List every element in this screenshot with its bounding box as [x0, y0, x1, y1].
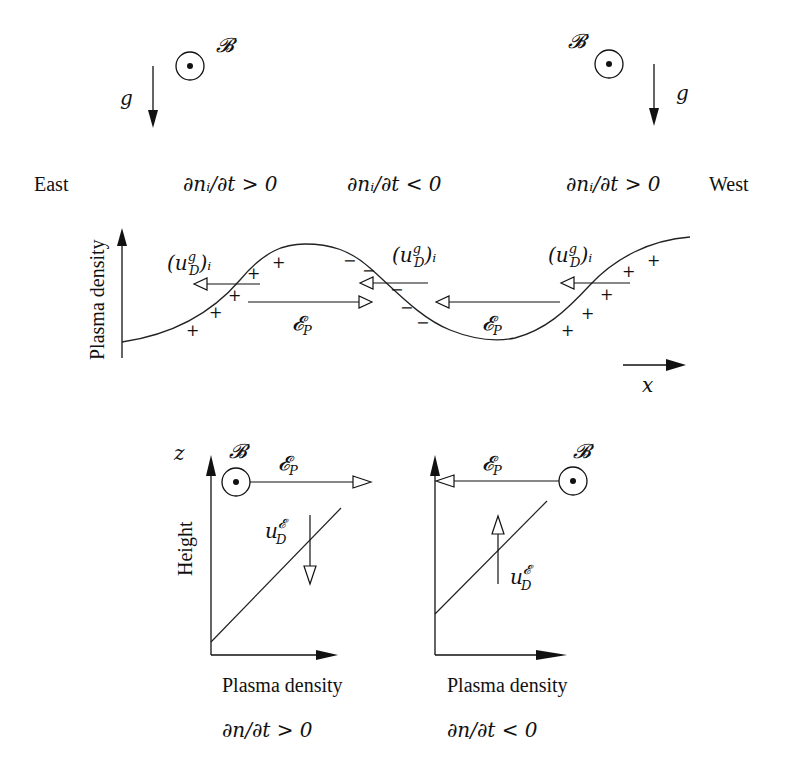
- z-axis-label: z: [173, 441, 185, 465]
- svg-text:+: +: [247, 264, 260, 283]
- svg-text:+: +: [228, 286, 241, 305]
- rate-label-3: ∂nᵢ/∂t > 0: [566, 172, 661, 196]
- y-axis-label-plasma-density: Plasma density: [86, 239, 109, 360]
- svg-text:+: +: [272, 253, 285, 272]
- electric-field-label-2: 𝓔P: [482, 311, 502, 338]
- x-axis-label: x: [642, 373, 653, 397]
- bottom-right-field-label: 𝓔P: [482, 451, 502, 478]
- svg-text:+: +: [622, 262, 635, 281]
- bottom-left-field-label: 𝓔P: [278, 451, 298, 478]
- bottom-left-drift-arrow: [304, 515, 316, 584]
- right-gravity-arrow: [649, 64, 659, 126]
- right-g-label: g: [676, 81, 689, 105]
- ion-drift-label-3: (ugD)ᵢ: [548, 241, 592, 270]
- bottom-left-drift-label: u𝓔D: [265, 516, 289, 547]
- rate-label-2: ∂nᵢ/∂t < 0: [347, 172, 442, 196]
- east-label: East: [34, 173, 69, 195]
- electric-field-arrow-2: [436, 296, 560, 308]
- svg-text:−: −: [343, 251, 356, 270]
- arrow-down-icon: [148, 110, 158, 128]
- svg-text:+: +: [209, 303, 222, 322]
- bottom-right-drift-label: u𝓔D: [510, 562, 534, 593]
- bottom-left-b-label: 𝓑: [229, 439, 251, 463]
- bottom-right-b-label: 𝓑: [573, 439, 595, 463]
- left-magnetic-field-symbol: [176, 52, 204, 80]
- svg-text:+: +: [561, 321, 574, 340]
- ion-drift-label-2: (ugD)ᵢ: [392, 241, 436, 270]
- svg-text:+: +: [186, 321, 199, 340]
- left-gravity-arrow: [148, 66, 158, 128]
- y-axis-arrow: [117, 228, 127, 358]
- svg-text:+: +: [647, 251, 660, 270]
- rate-label-1: ∂nᵢ/∂t > 0: [183, 172, 278, 196]
- bottom-left-caption: ∂n/∂t > 0: [222, 718, 313, 742]
- right-b-label: 𝓑: [568, 29, 590, 53]
- electric-field-label-1: 𝓔P: [292, 311, 312, 338]
- bottom-left-field-arrow: [250, 476, 371, 488]
- bottom-left-axes: [206, 455, 338, 660]
- electric-field-arrow-1: [248, 296, 372, 308]
- svg-text:−: −: [390, 280, 403, 299]
- height-axis-label: Height: [174, 521, 197, 576]
- bottom-right-density-profile: [435, 501, 547, 614]
- left-b-label: 𝓑: [216, 33, 238, 57]
- bottom-right-b-field-symbol: [559, 467, 587, 495]
- svg-text:+: +: [581, 304, 594, 323]
- bottom-right-caption: ∂n/∂t < 0: [447, 718, 538, 742]
- bottom-left-b-field-symbol: [222, 468, 250, 496]
- svg-text:−: −: [362, 261, 375, 280]
- west-label: West: [709, 173, 749, 195]
- bottom-left-x-axis-label: Plasma density: [222, 674, 343, 697]
- bottom-right-x-axis-label: Plasma density: [447, 674, 568, 697]
- x-axis-arrow: [623, 359, 686, 371]
- ion-drift-label-1: (ugD)ᵢ: [167, 249, 211, 278]
- svg-text:−: −: [416, 313, 429, 332]
- right-magnetic-field-symbol: [595, 50, 623, 78]
- bottom-right-drift-arrow: [492, 516, 504, 584]
- svg-text:+: +: [600, 285, 613, 304]
- plasma-drift-diagram: 𝓑 g 𝓑 g East West ∂nᵢ/∂t > 0 ∂nᵢ/∂t < 0 …: [0, 0, 803, 775]
- left-g-label: g: [120, 86, 133, 110]
- svg-text:−: −: [400, 298, 413, 317]
- arrow-down-icon: [649, 108, 659, 126]
